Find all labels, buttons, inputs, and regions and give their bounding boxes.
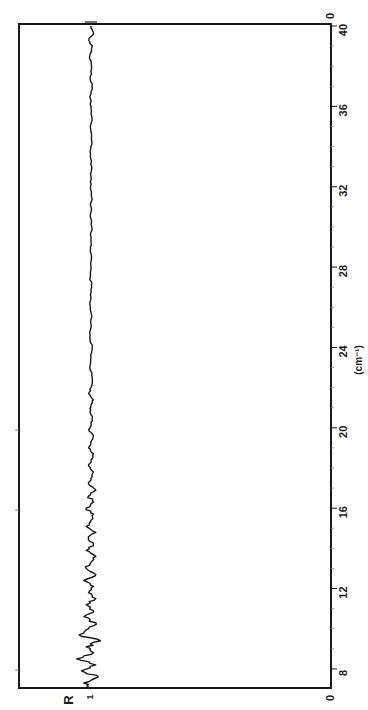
tick-label: 24 (337, 344, 349, 357)
wavenumber-unit-label: (cm⁻¹) (353, 345, 364, 374)
tick-label: 28 (337, 265, 349, 277)
r-axis-title: R (61, 695, 76, 705)
tick-label: 36 (337, 104, 349, 116)
tick-label: 32 (337, 185, 349, 197)
plot-frame (19, 24, 331, 688)
tick-label: 8 (337, 670, 349, 676)
rotated-line-chart: 81216202428323640 0 0 R 1 (cm⁻¹) (0, 0, 368, 710)
tick-label: 12 (337, 586, 349, 598)
r-axis-ticks (15, 22, 97, 688)
tick-label: 16 (337, 506, 349, 518)
wavenumber-axis-labels: 81216202428323640 (337, 24, 349, 676)
r-zero-label-top: 0 (324, 13, 336, 19)
tick-label: 40 (337, 24, 349, 36)
r-zero-label-bottom: 0 (324, 695, 336, 701)
r-one-label: 1 (85, 694, 95, 699)
tick-label: 20 (337, 426, 349, 438)
reflectance-trace (77, 26, 101, 689)
